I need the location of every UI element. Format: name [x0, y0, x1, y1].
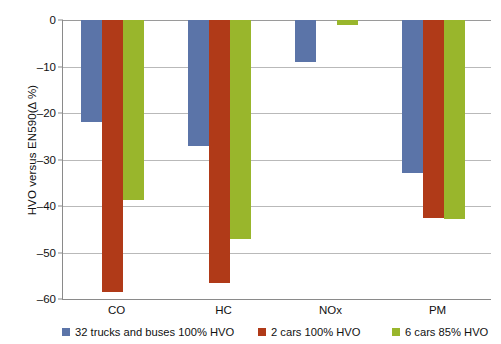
y-tick-label: 0 [50, 14, 56, 26]
y-tick-label: –50 [37, 247, 56, 259]
legend-entry[interactable]: 6 cars 85% HVO [392, 326, 488, 338]
legend-label: 6 cars 85% HVO [405, 326, 488, 338]
legend-entry[interactable]: 32 trucks and buses 100% HVO [62, 326, 234, 338]
y-tick-label: –20 [37, 107, 56, 119]
y-tick-label: –60 [37, 293, 56, 305]
bar [423, 20, 444, 218]
bar [123, 20, 144, 200]
legend-swatch-icon [258, 328, 266, 336]
y-tick-mark [58, 113, 63, 114]
bar [444, 20, 465, 219]
y-tick-label: –30 [37, 154, 56, 166]
chart-legend: 32 trucks and buses 100% HVO2 cars 100% … [62, 324, 490, 340]
gridline [63, 253, 491, 254]
legend-label: 32 trucks and buses 100% HVO [75, 326, 234, 338]
x-tick-label: PM [429, 304, 446, 316]
bar [295, 20, 316, 62]
bar [209, 20, 230, 283]
x-tick-label: HC [215, 304, 232, 316]
bar [81, 20, 102, 122]
legend-label: 2 cars 100% HVO [271, 326, 361, 338]
bar [230, 20, 251, 239]
bar-chart: HVO versus EN590(Δ %) 0–10–20–30–40–50–6… [0, 0, 501, 344]
y-tick-mark [58, 159, 63, 160]
y-tick-mark [58, 299, 63, 300]
bar [188, 20, 209, 146]
y-tick-mark [58, 66, 63, 67]
x-tick-label: CO [108, 304, 125, 316]
bar [402, 20, 423, 173]
y-tick-label: –40 [37, 200, 56, 212]
bar [102, 20, 123, 292]
legend-entry[interactable]: 2 cars 100% HVO [258, 326, 361, 338]
y-tick-mark [58, 20, 63, 21]
legend-swatch-icon [62, 328, 70, 336]
y-tick-mark [58, 252, 63, 253]
bar [337, 20, 358, 25]
x-tick-label: NOx [319, 304, 342, 316]
plot-area: 0–10–20–30–40–50–60 COHCNOxPM [62, 20, 491, 300]
legend-swatch-icon [392, 328, 400, 336]
y-tick-mark [58, 206, 63, 207]
y-tick-label: –10 [37, 61, 56, 73]
